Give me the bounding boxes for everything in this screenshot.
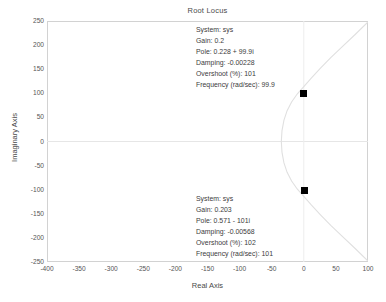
root-locus-branch-lower	[281, 142, 368, 262]
y-tick-label: 250	[16, 17, 44, 24]
selected-pole-lower[interactable]	[301, 187, 308, 194]
y-axis-tick-labels: 250200150100500-50-100-150-200-250	[14, 21, 44, 262]
datatip-line: Pole: 0.228 + 99.9i	[196, 47, 275, 58]
datatip-line: Frequency (rad/sec): 99.9	[196, 80, 275, 91]
x-tick-label: 100	[348, 265, 386, 272]
selected-pole-upper[interactable]	[300, 90, 307, 97]
page-title: Root Locus	[47, 6, 368, 15]
x-axis-title: Real Axis	[47, 281, 368, 290]
y-axis-title: Imaginary Axis	[10, 93, 19, 183]
root-locus-branch-upper	[281, 22, 368, 142]
y-tick-label: -200	[16, 234, 44, 241]
datatip-line: System: sys	[196, 25, 275, 36]
y-tick-label: 100	[16, 89, 44, 96]
y-tick-label: -50	[16, 162, 44, 169]
y-tick-label: 0	[16, 138, 44, 145]
x-axis-tick-labels: -400-350-300-250-200-150-100-50050100	[47, 265, 368, 277]
datatip-line: Gain: 0.203	[196, 205, 273, 216]
y-tick-label: -250	[16, 258, 44, 265]
datatip-line: Overshoot (%): 101	[196, 69, 275, 80]
datatip-lower[interactable]: System: sysGain: 0.203Pole: 0.571 - 101i…	[196, 194, 273, 259]
y-tick-label: 50	[16, 113, 44, 120]
y-tick-label: -150	[16, 210, 44, 217]
y-tick-label: 200	[16, 41, 44, 48]
datatip-line: Gain: 0.2	[196, 36, 275, 47]
root-locus-figure: Root Locus 250200150100500-50-100-150-20…	[0, 0, 386, 302]
datatip-upper[interactable]: System: sysGain: 0.2Pole: 0.228 + 99.9iD…	[196, 25, 275, 90]
datatip-line: Pole: 0.571 - 101i	[196, 216, 273, 227]
y-tick-label: -100	[16, 186, 44, 193]
y-tick-label: 150	[16, 65, 44, 72]
datatip-line: Overshoot (%): 102	[196, 238, 273, 249]
datatip-line: System: sys	[196, 194, 273, 205]
datatip-line: Frequency (rad/sec): 101	[196, 249, 273, 260]
datatip-line: Damping: -0.00568	[196, 227, 273, 238]
datatip-line: Damping: -0.00228	[196, 58, 275, 69]
